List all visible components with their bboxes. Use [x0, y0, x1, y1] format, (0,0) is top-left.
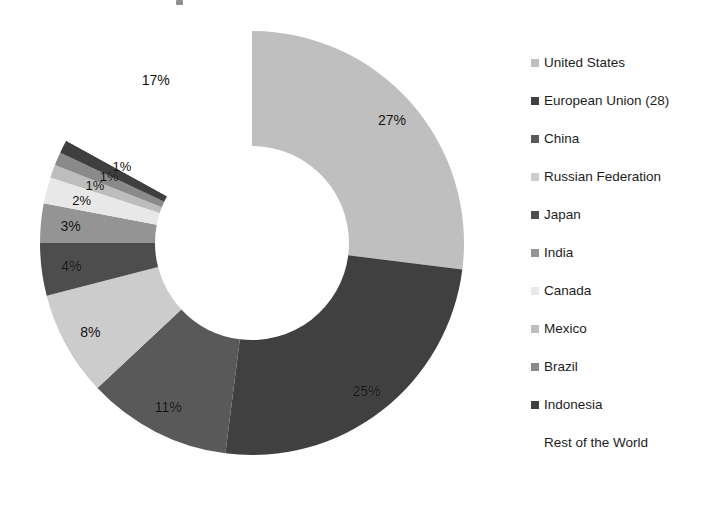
legend-item-label: United States [544, 54, 625, 71]
legend-item-label: Brazil [544, 358, 578, 375]
legend-item-label: Indonesia [544, 396, 603, 413]
legend-swatch-icon [531, 135, 539, 143]
slice-data-label: 25% [352, 383, 380, 399]
legend-item[interactable]: China [531, 130, 709, 168]
legend-swatch-icon [531, 59, 539, 67]
chart-page: 27%25%11%8%4%3%2%1%1%1%17% United States… [0, 0, 713, 518]
donut-slice[interactable] [252, 31, 464, 270]
legend-swatch-icon [531, 287, 539, 295]
legend-swatch-icon [531, 97, 539, 105]
legend-item-label: Rest of the World [544, 434, 648, 451]
legend-item[interactable]: United States [531, 54, 709, 92]
legend-item[interactable]: Brazil [531, 358, 709, 396]
slice-data-label: 1% [112, 159, 131, 174]
legend-swatch-icon [531, 439, 539, 447]
legend-item[interactable]: Russian Federation [531, 168, 709, 206]
slice-data-label: 17% [142, 72, 170, 88]
legend-item-label: Russian Federation [544, 168, 661, 185]
legend-item-label: India [544, 244, 573, 261]
slice-data-label: 8% [80, 324, 100, 340]
legend-item[interactable]: Japan [531, 206, 709, 244]
legend-item[interactable]: Mexico [531, 320, 709, 358]
legend-item-label: Canada [544, 282, 591, 299]
donut-slice[interactable] [225, 255, 462, 455]
legend-swatch-icon [531, 211, 539, 219]
legend-swatch-icon [531, 325, 539, 333]
legend-swatch-icon [531, 173, 539, 181]
legend-swatch-icon [531, 401, 539, 409]
legend-item-label: European Union (28) [544, 92, 669, 109]
legend-swatch-icon [531, 363, 539, 371]
donut-slice-group [40, 31, 464, 455]
legend-item[interactable]: Indonesia [531, 396, 709, 434]
legend-item[interactable]: European Union (28) [531, 92, 709, 130]
legend-item[interactable]: Rest of the World [531, 434, 709, 472]
slice-data-label: 27% [378, 112, 406, 128]
chart-legend: United StatesEuropean Union (28)ChinaRus… [531, 54, 709, 472]
legend-item-label: China [544, 130, 579, 147]
slice-data-label: 11% [155, 399, 182, 415]
donut-chart-svg [0, 0, 500, 500]
donut-chart: 27%25%11%8%4%3%2%1%1%1%17% [0, 0, 500, 500]
legend-item-label: Japan [544, 206, 581, 223]
slice-data-label: 3% [61, 218, 81, 234]
legend-item[interactable]: India [531, 244, 709, 282]
slice-data-label: 4% [61, 258, 81, 274]
slice-data-label: 2% [72, 192, 91, 207]
legend-swatch-icon [531, 249, 539, 257]
legend-item[interactable]: Canada [531, 282, 709, 320]
legend-item-label: Mexico [544, 320, 587, 337]
